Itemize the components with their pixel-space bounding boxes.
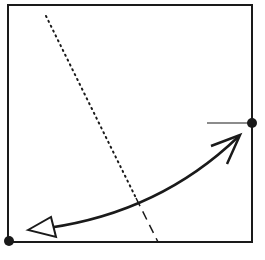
diagram-canvas [0,0,265,260]
right-dot [247,118,257,128]
bottom-left-dot [4,236,14,246]
dashed-diagonal-line [136,198,158,242]
dotted-diagonal-line [46,16,136,198]
curved-arrow-shaft [48,137,238,228]
hollow-triangle-arrowhead-icon [28,217,56,237]
